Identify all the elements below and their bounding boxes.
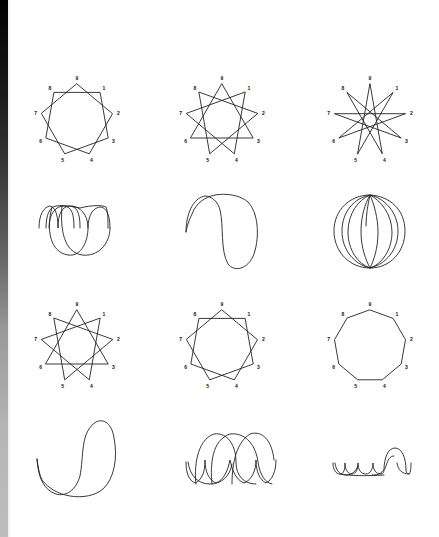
vertex-label: 3 [405, 364, 408, 370]
curve-row2-col2 [186, 194, 257, 268]
vertex-label: 5 [61, 383, 64, 389]
vertex-label: 6 [184, 138, 187, 144]
vertex-label: 5 [206, 383, 209, 389]
vertex-label: 6 [332, 138, 335, 144]
curve-row4-col3 [333, 448, 411, 476]
polygon-figure-row1-col1: 912345678 [34, 75, 120, 163]
vertex-label: 8 [49, 311, 52, 317]
vertex-label: 1 [248, 311, 251, 317]
vertex-label: 6 [39, 364, 42, 370]
vertex-label: 5 [354, 383, 357, 389]
polygon-figure-row1-col3: 912345678 [327, 75, 413, 163]
vertex-label: 1 [103, 311, 106, 317]
vertex-label: 1 [248, 85, 251, 91]
vertex-label: 9 [76, 75, 79, 81]
vertex-label: 9 [221, 301, 224, 307]
vertex-label: 4 [383, 157, 386, 163]
vertex-label: 8 [342, 85, 345, 91]
curve-row4-col2 [186, 433, 276, 484]
polygon-edges [42, 84, 113, 154]
curve-row2-col1 [39, 206, 110, 256]
vertex-label: 5 [354, 157, 357, 163]
vertex-label: 9 [369, 301, 372, 307]
polygon-figure-row3-col3: 912345678 [327, 301, 413, 389]
vertex-label: 1 [396, 85, 399, 91]
vertex-label: 8 [194, 85, 197, 91]
vertex-label: 8 [342, 311, 345, 317]
vertex-label: 4 [90, 383, 93, 389]
curve-row2-col3 [334, 195, 405, 268]
polygon-figure-row3-col1: 912345678 [34, 301, 120, 389]
vertex-label: 4 [235, 383, 238, 389]
polygon-edges [335, 84, 406, 154]
vertex-label: 7 [179, 336, 182, 342]
vertex-label: 2 [410, 110, 413, 116]
vertex-label: 3 [112, 138, 115, 144]
vertex-label: 7 [34, 110, 37, 116]
vertex-label: 3 [257, 364, 260, 370]
vertex-label: 4 [90, 157, 93, 163]
polygon-edges [187, 310, 258, 380]
polygon-edges [335, 310, 406, 380]
vertex-label: 7 [327, 110, 330, 116]
vertex-label: 8 [49, 85, 52, 91]
vertex-label: 9 [221, 75, 224, 81]
vertex-label: 6 [184, 364, 187, 370]
vertex-label: 6 [39, 138, 42, 144]
vertex-label: 7 [34, 336, 37, 342]
vertex-label: 9 [369, 75, 372, 81]
polygon-edges [42, 310, 113, 380]
vertex-label: 1 [396, 311, 399, 317]
polygon-figure-row3-col2: 912345678 [179, 301, 265, 389]
polygon-figure-row1-col2: 912345678 [179, 75, 265, 163]
vertex-label: 5 [206, 157, 209, 163]
curves-layer [37, 194, 411, 496]
vertex-label: 4 [383, 383, 386, 389]
figure-canvas: 9123456789123456789123456789123456789123… [0, 0, 439, 537]
vertex-label: 1 [103, 85, 106, 91]
vertex-label: 2 [410, 336, 413, 342]
vertex-label: 3 [112, 364, 115, 370]
vertex-label: 2 [262, 110, 265, 116]
vertex-label: 9 [76, 301, 79, 307]
star-polygons-layer: 9123456789123456789123456789123456789123… [34, 75, 413, 389]
curve-row4-col1 [37, 421, 116, 497]
vertex-label: 6 [332, 364, 335, 370]
vertex-label: 2 [117, 336, 120, 342]
vertex-label: 2 [262, 336, 265, 342]
vertex-label: 5 [61, 157, 64, 163]
polygon-edges [187, 84, 258, 154]
vertex-label: 3 [257, 138, 260, 144]
vertex-label: 3 [405, 138, 408, 144]
vertex-label: 2 [117, 110, 120, 116]
vertex-label: 4 [235, 157, 238, 163]
vertex-label: 8 [194, 311, 197, 317]
vertex-label: 7 [179, 110, 182, 116]
vertex-label: 7 [327, 336, 330, 342]
